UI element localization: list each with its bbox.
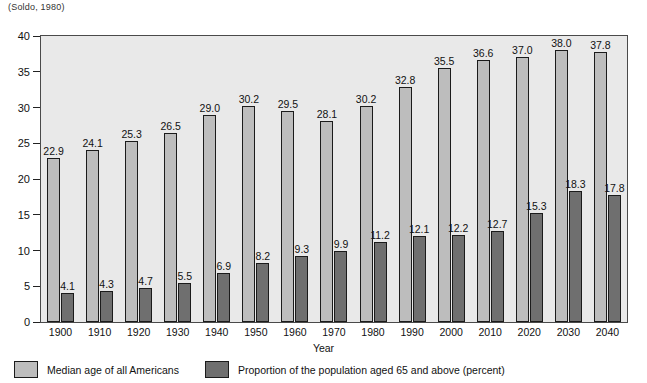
bar[interactable]: 25.3 <box>125 141 138 322</box>
y-axis-tick-label: 40 <box>18 30 30 42</box>
legend-item-label: Proportion of the population aged 65 and… <box>238 364 505 376</box>
bar-value-label: 12.2 <box>448 222 468 234</box>
y-axis-tick: 25 <box>18 136 40 150</box>
legend-item-proportion-65-above: Proportion of the population aged 65 and… <box>205 361 505 378</box>
y-axis-tick: 20 <box>18 172 40 186</box>
bar[interactable]: 12.1 <box>413 236 426 323</box>
bar-value-label: 8.2 <box>256 250 271 262</box>
x-axis-title: Year <box>0 342 647 354</box>
bar-value-label: 29.0 <box>200 102 220 114</box>
bar-group: 37.817.8 <box>588 36 627 322</box>
bar[interactable]: 36.6 <box>477 60 490 322</box>
x-axis-tick-label: 1950 <box>236 326 275 342</box>
bar-group: 25.34.7 <box>119 36 158 322</box>
bar[interactable]: 4.7 <box>139 288 152 322</box>
bar-group: 28.19.9 <box>314 36 353 322</box>
bar-value-label: 9.9 <box>334 238 349 250</box>
bar-value-label: 25.3 <box>121 128 141 140</box>
bar[interactable]: 35.5 <box>438 68 451 322</box>
bar[interactable]: 28.1 <box>320 121 333 322</box>
y-axis-tick-label: 25 <box>18 137 30 149</box>
bar-value-label: 26.5 <box>161 120 181 132</box>
bar[interactable]: 32.8 <box>399 87 412 322</box>
bar-group: 38.018.3 <box>549 36 588 322</box>
bar[interactable]: 30.2 <box>242 106 255 322</box>
bar-value-label: 4.3 <box>99 278 114 290</box>
legend-item-median-age: Median age of all Americans <box>14 361 179 378</box>
bar[interactable]: 12.7 <box>491 231 504 322</box>
y-axis: 0510152025303540 <box>0 28 40 330</box>
bar-value-label: 18.3 <box>565 178 585 190</box>
y-axis-tick-label: 20 <box>18 173 30 185</box>
bar-group: 37.015.3 <box>510 36 549 322</box>
bar-value-label: 15.3 <box>526 200 546 212</box>
bar[interactable]: 4.3 <box>100 291 113 322</box>
y-axis-tick-label: 35 <box>18 66 30 78</box>
bar[interactable]: 12.2 <box>452 235 465 322</box>
y-axis-tick-mark <box>33 322 40 323</box>
legend-item-label: Median age of all Americans <box>47 364 179 376</box>
bar-group: 30.28.2 <box>236 36 275 322</box>
y-axis-tick-label: 15 <box>18 209 30 221</box>
bar-value-label: 28.1 <box>317 108 337 120</box>
bar-value-label: 35.5 <box>434 55 454 67</box>
bar[interactable]: 22.9 <box>47 158 60 322</box>
x-axis-tick-label: 1960 <box>275 326 314 342</box>
y-axis-tick-label: 30 <box>18 102 30 114</box>
x-axis-tick-label: 1970 <box>314 326 353 342</box>
bar-group: 26.55.5 <box>158 36 197 322</box>
bar-group: 29.06.9 <box>197 36 236 322</box>
bar-value-label: 37.0 <box>512 44 532 56</box>
bar[interactable]: 9.3 <box>295 256 308 322</box>
bar[interactable]: 24.1 <box>86 150 99 322</box>
bar-series-container: 22.94.124.14.325.34.726.55.529.06.930.28… <box>41 36 627 322</box>
bar-value-label: 12.7 <box>487 218 507 230</box>
bar[interactable]: 4.1 <box>61 293 74 322</box>
bar[interactable]: 8.2 <box>256 263 269 322</box>
bar-value-label: 6.9 <box>216 260 231 272</box>
bar-value-label: 4.7 <box>138 275 153 287</box>
bar[interactable]: 37.0 <box>516 57 529 322</box>
bar[interactable]: 5.5 <box>178 283 191 322</box>
x-axis-tick-label: 1990 <box>393 326 432 342</box>
y-axis-tick-mark <box>33 286 40 287</box>
y-axis-tick: 40 <box>18 29 40 43</box>
bar[interactable]: 17.8 <box>608 195 621 322</box>
bar-value-label: 4.1 <box>60 280 75 292</box>
y-axis-tick-mark <box>33 214 40 215</box>
y-axis-tick: 0 <box>24 315 40 329</box>
x-axis-tick-label: 2020 <box>510 326 549 342</box>
bar-group: 22.94.1 <box>41 36 80 322</box>
x-axis-tick-label: 2000 <box>432 326 471 342</box>
x-axis-tick-label: 1940 <box>197 326 236 342</box>
bar-value-label: 30.2 <box>356 93 376 105</box>
y-axis-tick: 30 <box>18 101 40 115</box>
bar[interactable]: 11.2 <box>374 242 387 322</box>
bar-value-label: 32.8 <box>395 74 415 86</box>
x-axis-tick-label: 1920 <box>119 326 158 342</box>
bar[interactable]: 29.5 <box>281 111 294 322</box>
x-axis-tick-label: 2040 <box>588 326 627 342</box>
bar-group: 36.612.7 <box>471 36 510 322</box>
y-axis-tick-mark <box>33 71 40 72</box>
bar[interactable]: 18.3 <box>569 191 582 322</box>
bar-value-label: 12.1 <box>409 223 429 235</box>
source-caption: (Soldo, 1980) <box>8 2 65 12</box>
bar-value-label: 36.6 <box>473 47 493 59</box>
bar[interactable]: 6.9 <box>217 273 230 322</box>
bar[interactable]: 29.0 <box>203 115 216 322</box>
bar[interactable]: 26.5 <box>164 133 177 322</box>
y-axis-tick-label: 10 <box>18 245 30 257</box>
bar-value-label: 9.3 <box>295 243 310 255</box>
bar-group: 24.14.3 <box>80 36 119 322</box>
bar-value-label: 37.8 <box>590 39 610 51</box>
y-axis-tick-mark <box>33 250 40 251</box>
x-axis: 1900191019201930194019501960197019801990… <box>41 326 627 342</box>
y-axis-tick: 10 <box>18 244 40 258</box>
bar[interactable]: 9.9 <box>334 251 347 322</box>
x-axis-tick-label: 1910 <box>80 326 119 342</box>
bar-value-label: 11.2 <box>370 229 390 241</box>
x-axis-tick-label: 1980 <box>354 326 393 342</box>
bar[interactable]: 15.3 <box>530 213 543 322</box>
bar[interactable]: 30.2 <box>360 106 373 322</box>
